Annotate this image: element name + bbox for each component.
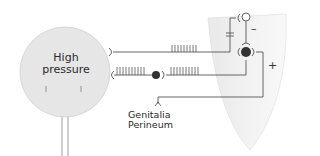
excitatory-sign: +	[268, 59, 277, 72]
bladder-terminal-bottom	[112, 71, 115, 79]
genitalia-label-line2: Perineum	[128, 120, 188, 130]
myelin-ticks-left	[117, 67, 144, 75]
myelin-ticks-right	[171, 67, 198, 75]
bladder-terminal-top	[109, 48, 112, 56]
ganglion-neuron-filled	[152, 71, 160, 79]
bladder-label-line1: High	[27, 52, 105, 64]
myelin-ticks-top	[172, 45, 196, 52]
bladder-label: High pressure	[27, 52, 105, 75]
spinal-cord-shape	[208, 14, 286, 150]
bladder-urethra	[62, 112, 68, 156]
genitalia-terminal	[155, 102, 161, 106]
interneuron-open	[242, 13, 250, 21]
motor-neuron-filled	[241, 47, 251, 57]
ganglion-synapse	[162, 71, 164, 79]
genitalia-label: Genitalia Perineum	[128, 110, 188, 130]
inhibitory-sign: –	[251, 22, 257, 35]
bladder-label-line2: pressure	[27, 64, 105, 76]
